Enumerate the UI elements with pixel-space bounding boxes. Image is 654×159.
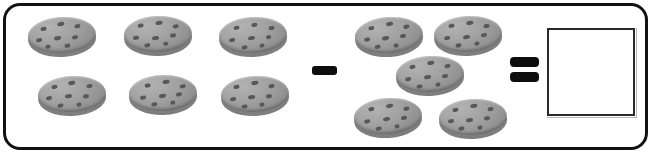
chocolate-chip-icon [266, 35, 272, 40]
chocolate-chip-icon [386, 21, 394, 26]
chocolate-chip-icon [368, 107, 375, 112]
chocolate-chip-icon [54, 36, 62, 41]
chocolate-chip-icon [57, 103, 64, 108]
chocolate-chip-icon [483, 23, 490, 28]
chocolate-chip-icon [448, 23, 455, 28]
chocolate-chip-icon [229, 38, 236, 43]
chocolate-chip-icon [455, 43, 462, 48]
cookie [220, 74, 290, 118]
chocolate-chip-icon [152, 36, 160, 41]
chocolate-chip-icon [251, 22, 258, 27]
chocolate-chip-icon [36, 38, 43, 43]
chocolate-chip-icon [435, 82, 441, 87]
chocolate-chip-icon [159, 93, 167, 98]
chocolate-chip-icon [463, 34, 471, 39]
chocolate-chip-icon [466, 20, 474, 25]
chocolate-chip-icon [46, 96, 53, 101]
chocolate-chip-icon [268, 25, 275, 30]
chocolate-chip-icon [251, 80, 259, 85]
chocolate-chip-icon [57, 21, 65, 26]
chocolate-chip-icon [137, 23, 144, 28]
chocolate-chip-icon [401, 115, 408, 120]
cookie [37, 74, 107, 118]
chocolate-chip-icon [442, 74, 449, 79]
chocolate-chip-icon [416, 84, 423, 89]
chocolate-chip-icon [64, 43, 71, 48]
chocolate-chip-icon [248, 95, 256, 100]
chocolate-chip-icon [394, 124, 400, 129]
chocolate-chip-icon [409, 64, 416, 69]
chocolate-chip-icon [386, 103, 394, 108]
chocolate-chip-icon [51, 84, 58, 89]
equals-bottom-bar [510, 72, 539, 82]
chocolate-chip-icon [383, 116, 391, 121]
chocolate-chip-icon [448, 119, 455, 124]
chocolate-chip-icon [427, 60, 435, 65]
chocolate-chip-icon [144, 83, 151, 88]
chocolate-chip-icon [403, 106, 410, 111]
chocolate-chip-icon [241, 45, 248, 50]
chocolate-chip-icon [259, 102, 265, 107]
chocolate-chip-icon [172, 24, 179, 29]
chocolate-chip-icon [368, 26, 375, 31]
chocolate-chip-icon [374, 44, 381, 49]
cookie [218, 15, 288, 59]
chocolate-chip-icon [484, 116, 491, 121]
chocolate-chip-icon [481, 33, 488, 38]
chocolate-chip-icon [163, 41, 169, 46]
chocolate-chip-icon [424, 74, 432, 79]
chocolate-chip-icon [375, 126, 382, 131]
cookie [395, 54, 465, 98]
chocolate-chip-icon [477, 125, 483, 130]
chocolate-chip-icon [466, 118, 474, 123]
chocolate-chip-icon [162, 79, 170, 84]
chocolate-chip-icon [452, 107, 459, 112]
chocolate-chip-icon [400, 33, 407, 38]
chocolate-chip-icon [176, 92, 183, 97]
chocolate-chip-icon [230, 97, 237, 102]
chocolate-chip-icon [248, 35, 256, 40]
chocolate-chip-icon [45, 44, 51, 49]
chocolate-chip-icon [487, 107, 494, 112]
chocolate-chip-icon [266, 94, 273, 99]
cookie [27, 15, 97, 59]
chocolate-chip-icon [151, 102, 158, 107]
chocolate-chip-icon [382, 36, 390, 41]
chocolate-chip-icon [83, 94, 90, 99]
cookie [438, 97, 508, 141]
chocolate-chip-icon [72, 35, 79, 40]
chocolate-chip-icon [259, 43, 265, 48]
chocolate-chip-icon [364, 37, 371, 42]
chocolate-chip-icon [133, 35, 140, 40]
chocolate-chip-icon [364, 119, 371, 124]
cookie [354, 15, 425, 60]
chocolate-chip-icon [76, 102, 82, 107]
chocolate-chip-icon [68, 80, 76, 85]
cookie [123, 15, 192, 57]
chocolate-chip-icon [233, 84, 240, 89]
minus-operator-icon [312, 66, 337, 75]
chocolate-chip-icon [140, 95, 147, 100]
chocolate-chip-icon [403, 24, 410, 29]
chocolate-chip-icon [86, 84, 93, 89]
chocolate-chip-icon [470, 103, 478, 108]
cookie [128, 74, 197, 116]
chocolate-chip-icon [444, 36, 451, 41]
chocolate-chip-icon [170, 100, 176, 105]
chocolate-chip-icon [405, 77, 412, 82]
chocolate-chip-icon [444, 64, 451, 69]
cookie [353, 96, 424, 141]
chocolate-chip-icon [65, 94, 73, 99]
answer-input-box[interactable] [547, 28, 635, 116]
worksheet-canvas [0, 0, 654, 159]
chocolate-chip-icon [268, 84, 275, 89]
chocolate-chip-icon [233, 25, 240, 30]
chocolate-chip-icon [458, 126, 465, 131]
chocolate-chip-icon [144, 43, 151, 48]
chocolate-chip-icon [179, 84, 186, 89]
chocolate-chip-icon [393, 43, 399, 48]
cookie [433, 14, 503, 58]
chocolate-chip-icon [474, 41, 480, 46]
equals-top-bar [510, 57, 539, 67]
chocolate-chip-icon [40, 26, 47, 31]
